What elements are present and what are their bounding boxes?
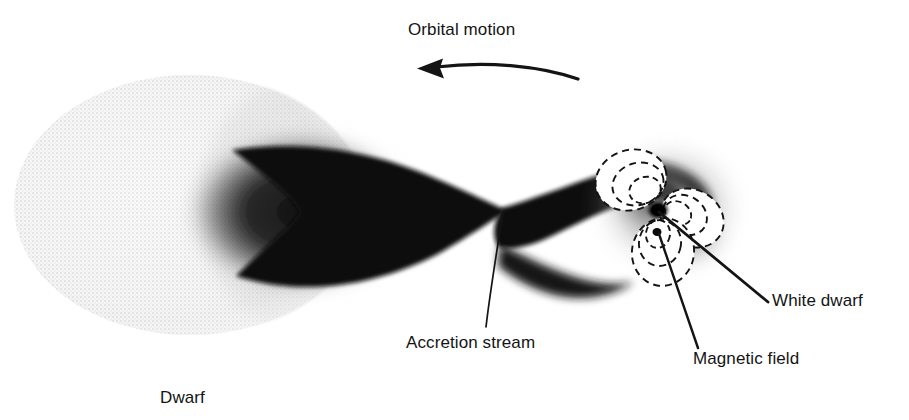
orbital-arrow-head	[417, 59, 444, 79]
label-white-dwarf: White dwarf	[772, 291, 863, 311]
orbital-arrow-shaft	[436, 64, 578, 79]
label-magnetic-field: Magnetic field	[693, 349, 799, 369]
label-dwarf: Dwarf	[160, 388, 205, 408]
figure-canvas: Orbital motion Accretion stream Magnetic…	[0, 0, 909, 420]
label-accretion-stream: Accretion stream	[406, 333, 535, 353]
label-orbital-motion: Orbital motion	[408, 20, 515, 40]
orbital-motion-arrow	[417, 59, 578, 80]
